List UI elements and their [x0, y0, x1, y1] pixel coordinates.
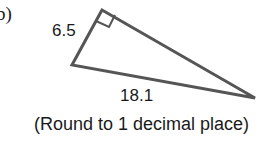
side-length-label-bottom: 18.1 — [120, 86, 153, 106]
side-length-label-left: 6.5 — [52, 21, 76, 41]
rounding-instruction: (Round to 1 decimal place) — [34, 114, 249, 135]
problem-figure: b) 6.5 18.1 (Round to 1 decimal place) — [0, 0, 277, 156]
